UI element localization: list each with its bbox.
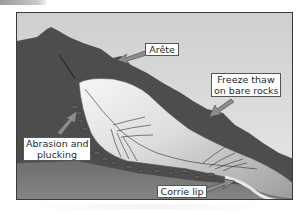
label-arete: Arête bbox=[145, 43, 179, 56]
label-corrie-lip: Corrie lip bbox=[157, 185, 207, 198]
label-corrie-lip-text: Corrie lip bbox=[161, 186, 204, 197]
diagram-frame: Arête Freeze thaw on bare rocks Abrasion… bbox=[16, 12, 293, 200]
label-abrasion-line1: Abrasion and bbox=[26, 138, 88, 149]
label-freeze-thaw-line1: Freeze thaw bbox=[214, 74, 278, 85]
label-freeze-thaw: Freeze thaw on bare rocks bbox=[211, 73, 281, 97]
corrie-glacier-illustration bbox=[17, 13, 293, 200]
page-footer-fade bbox=[30, 204, 270, 210]
label-abrasion-plucking: Abrasion and plucking bbox=[23, 137, 91, 161]
label-freeze-thaw-line2: on bare rocks bbox=[214, 85, 278, 96]
page-tab-shadow bbox=[0, 0, 46, 5]
label-abrasion-line2: plucking bbox=[26, 149, 88, 160]
label-arete-text: Arête bbox=[149, 44, 175, 55]
